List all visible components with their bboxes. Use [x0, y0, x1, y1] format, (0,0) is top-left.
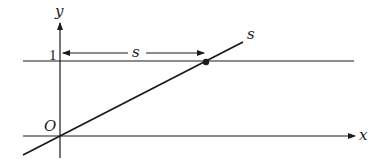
y-axis-label: y	[54, 2, 64, 20]
s-distance-label: s	[132, 43, 140, 61]
intersection-point	[203, 59, 209, 65]
x-axis-label: x	[359, 126, 368, 144]
origin-label: O	[44, 117, 56, 135]
line-s-label: s	[247, 25, 255, 43]
diagram-canvas: y x O 1 s s	[0, 0, 382, 163]
one-label: 1	[49, 47, 57, 63]
